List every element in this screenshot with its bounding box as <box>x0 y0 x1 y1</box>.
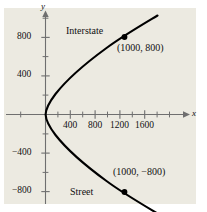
x-tick-label-800: 800 <box>88 120 102 130</box>
interstate-annotation: Interstate <box>66 25 103 36</box>
x-tick-label-1200: 1200 <box>110 120 129 130</box>
interstate-point-label: (1000, 800) <box>117 42 164 53</box>
y-tick-label-neg800: −800 <box>12 185 32 195</box>
street-point-label: (1000, −800) <box>113 166 165 177</box>
y-tick-label-neg400: −400 <box>12 147 32 157</box>
x-axis <box>6 111 190 117</box>
parabola-figure: x y 800 400 −400 −800 400 800 1200 1600 … <box>0 0 207 212</box>
y-tick-label-400: 400 <box>17 69 31 79</box>
x-axis-label: x <box>192 108 196 118</box>
interstate-point <box>122 34 128 40</box>
street-annotation: Street <box>70 186 93 197</box>
y-tick-label-800: 800 <box>17 31 31 41</box>
street-point <box>122 189 128 195</box>
x-tick-label-400: 400 <box>63 120 77 130</box>
y-axis-label: y <box>41 1 45 11</box>
x-tick-label-1600: 1600 <box>135 120 154 130</box>
